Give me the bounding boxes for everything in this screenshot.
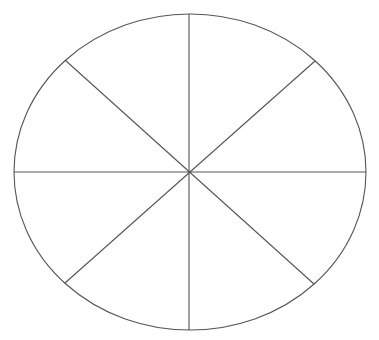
eight-section-circle (0, 0, 379, 340)
